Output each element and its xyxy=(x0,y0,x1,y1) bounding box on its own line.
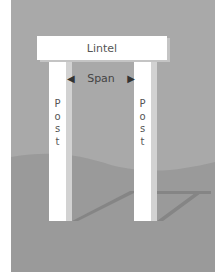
arrow-right-icon: ▶ xyxy=(127,73,135,84)
post-letter: P xyxy=(54,98,60,111)
lintel-label: Lintel xyxy=(87,42,117,55)
right-post: P o s t xyxy=(134,60,151,221)
post-letter: P xyxy=(139,98,145,111)
span-indicator: ◀ Span ▶ xyxy=(67,70,135,86)
post-letter: t xyxy=(141,136,145,149)
left-post: P o s t xyxy=(49,60,66,221)
post-letter: o xyxy=(54,111,60,124)
right-post-label: P o s t xyxy=(134,98,151,148)
post-letter: t xyxy=(56,136,60,149)
right-post-side xyxy=(151,60,157,221)
post-letter: s xyxy=(55,123,60,136)
ground xyxy=(11,154,215,272)
post-letter: s xyxy=(140,123,145,136)
post-letter: o xyxy=(139,111,145,124)
lintel: Lintel xyxy=(37,36,167,60)
left-post-label: P o s t xyxy=(49,98,66,148)
span-label: Span xyxy=(87,72,115,85)
diagram-panel: P o s t P o s t Lintel ◀ Span ▶ xyxy=(11,0,215,272)
arrow-left-icon: ◀ xyxy=(67,73,75,84)
